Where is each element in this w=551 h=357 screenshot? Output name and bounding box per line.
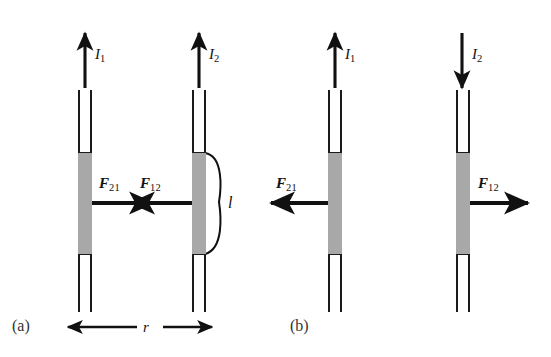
wire-a2-segment bbox=[192, 152, 206, 255]
force-label-a21: F21 bbox=[99, 176, 120, 193]
panel-label-b: (b) bbox=[290, 318, 309, 334]
force-subscript: 12 bbox=[488, 182, 499, 193]
force-subscript: 21 bbox=[109, 182, 120, 193]
wire-b2-segment bbox=[456, 152, 470, 255]
force-label-a12: F12 bbox=[140, 176, 161, 193]
force-symbol: F bbox=[276, 175, 286, 191]
force-label-b21: F21 bbox=[276, 176, 297, 193]
length-label: l bbox=[228, 195, 232, 211]
current-label-a1: I1 bbox=[95, 47, 105, 64]
current-subscript: 1 bbox=[350, 53, 355, 64]
wire-b1-segment bbox=[328, 152, 342, 255]
force-symbol: F bbox=[140, 175, 150, 191]
current-subscript: 2 bbox=[477, 53, 482, 64]
force-symbol: F bbox=[478, 175, 488, 191]
force-subscript: 21 bbox=[286, 182, 297, 193]
current-label-b2: I2 bbox=[472, 47, 482, 64]
force-subscript: 12 bbox=[150, 182, 161, 193]
wire-a1-segment bbox=[78, 152, 92, 255]
figure-canvas: I1 I2 F21 F12 l r (a) I1 I2 F21 F12 (b) bbox=[0, 0, 551, 357]
force-symbol: F bbox=[99, 175, 109, 191]
length-brace bbox=[205, 153, 220, 254]
current-label-b1: I1 bbox=[345, 47, 355, 64]
separation-label: r bbox=[143, 320, 149, 335]
panel-label-a: (a) bbox=[12, 318, 30, 334]
force-label-b12: F12 bbox=[478, 176, 499, 193]
current-subscript: 1 bbox=[100, 53, 105, 64]
current-subscript: 2 bbox=[214, 53, 219, 64]
current-label-a2: I2 bbox=[209, 47, 219, 64]
